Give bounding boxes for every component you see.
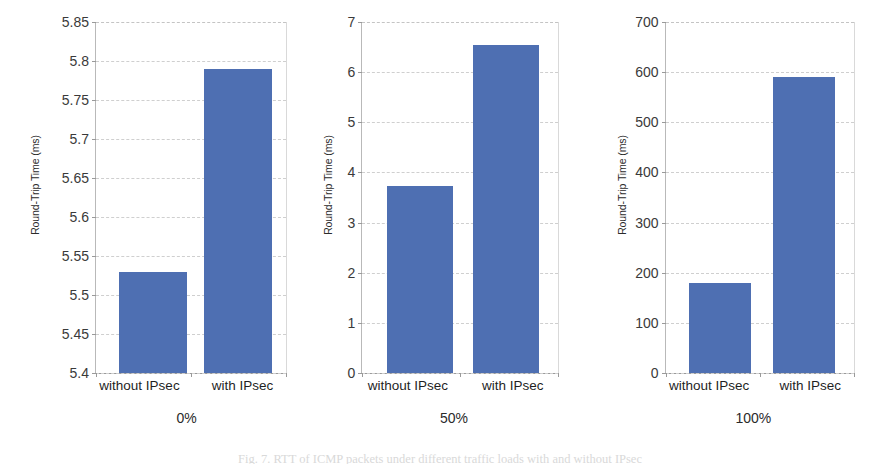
x-tick-mark bbox=[96, 373, 97, 377]
y-tick-label: 100 bbox=[635, 315, 664, 331]
y-axis-title: Round-Trip Time (ms) bbox=[319, 0, 337, 370]
x-axis-label: without IPsec bbox=[88, 378, 191, 393]
y-tick-label: 500 bbox=[635, 114, 664, 130]
y-tick-label: 5.8 bbox=[70, 53, 95, 69]
y-axis-title: Round-Trip Time (ms) bbox=[26, 0, 44, 370]
y-tick-label: 5.5 bbox=[70, 287, 95, 303]
y-tick-label: 200 bbox=[635, 265, 664, 281]
y-tick-label: 300 bbox=[635, 215, 664, 231]
y-tick-label: 7 bbox=[348, 14, 362, 30]
bar bbox=[119, 272, 187, 373]
x-tick-mark bbox=[666, 373, 667, 377]
y-tick-label: 4 bbox=[348, 164, 362, 180]
bar bbox=[387, 186, 453, 373]
panel-caption-100pct: 100% bbox=[587, 410, 880, 426]
bar bbox=[773, 77, 835, 373]
y-tick-label: 1 bbox=[348, 315, 362, 331]
panel-caption-50pct: 50% bbox=[293, 410, 600, 426]
chart-panel-50pct: Round-Trip Time (ms) 01234567 without IP… bbox=[293, 0, 586, 436]
y-tick-label: 700 bbox=[635, 14, 664, 30]
y-axis-title-text: Round-Trip Time (ms) bbox=[322, 135, 334, 235]
y-tick-label: 5.65 bbox=[62, 170, 95, 186]
x-axis-label: with IPsec bbox=[460, 378, 565, 393]
x-tick-mark bbox=[362, 373, 363, 377]
y-tick-label: 6 bbox=[348, 64, 362, 80]
bar bbox=[204, 69, 272, 373]
x-axis-labels: without IPsecwith IPsec bbox=[88, 378, 294, 396]
y-tick-label: 5.55 bbox=[62, 248, 95, 264]
bar bbox=[473, 45, 539, 373]
plot-area: 0100200300400500600700 bbox=[665, 22, 855, 374]
y-tick-label: 5.75 bbox=[62, 92, 95, 108]
x-tick-mark bbox=[286, 373, 287, 377]
x-tick-mark bbox=[760, 373, 761, 377]
y-tick-label: 5.45 bbox=[62, 326, 95, 342]
plot-area: 5.45.455.55.555.65.655.75.755.85.85 bbox=[95, 22, 287, 374]
bars-group bbox=[666, 22, 854, 373]
x-axis-label: without IPsec bbox=[355, 378, 460, 393]
figure-caption: Fig. 7. RTT of ICMP packets under differ… bbox=[0, 452, 880, 464]
y-tick-label: 5.85 bbox=[62, 14, 95, 30]
plot-area: 01234567 bbox=[361, 22, 559, 374]
x-axis-labels: without IPsecwith IPsec bbox=[659, 378, 861, 396]
chart-panels: Round-Trip Time (ms) 5.45.455.55.555.65.… bbox=[0, 0, 880, 436]
y-tick-label: 5.7 bbox=[70, 131, 95, 147]
y-tick-label: 2 bbox=[348, 265, 362, 281]
chart-panel-0pct: Round-Trip Time (ms) 5.45.455.55.555.65.… bbox=[0, 0, 293, 436]
bar bbox=[689, 283, 751, 373]
panel-caption-0pct: 0% bbox=[0, 410, 333, 426]
y-tick-label: 5.6 bbox=[70, 209, 95, 225]
y-axis-title-text: Round-Trip Time (ms) bbox=[616, 135, 628, 235]
y-tick-label: 600 bbox=[635, 64, 664, 80]
x-axis-label: without IPsec bbox=[659, 378, 760, 393]
x-axis-label: with IPsec bbox=[191, 378, 294, 393]
y-tick-label: 3 bbox=[348, 215, 362, 231]
y-axis-title-text: Round-Trip Time (ms) bbox=[29, 135, 41, 235]
x-tick-mark bbox=[460, 373, 461, 377]
x-axis-labels: without IPsecwith IPsec bbox=[355, 378, 565, 396]
y-tick-label: 400 bbox=[635, 164, 664, 180]
figure-container: Round-Trip Time (ms) 5.45.455.55.555.65.… bbox=[0, 0, 880, 464]
x-tick-mark bbox=[558, 373, 559, 377]
y-axis-title: Round-Trip Time (ms) bbox=[613, 0, 631, 370]
x-tick-mark bbox=[854, 373, 855, 377]
bars-group bbox=[96, 22, 286, 373]
y-tick-label: 5 bbox=[348, 114, 362, 130]
x-axis-label: with IPsec bbox=[760, 378, 861, 393]
x-tick-mark bbox=[191, 373, 192, 377]
chart-panel-100pct: Round-Trip Time (ms) 0100200300400500600… bbox=[587, 0, 880, 436]
bars-group bbox=[362, 22, 558, 373]
